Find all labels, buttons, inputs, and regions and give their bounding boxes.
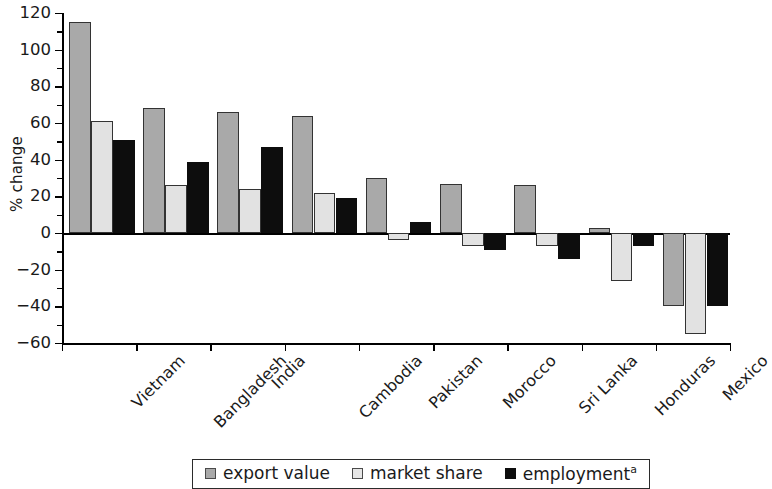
bar bbox=[685, 233, 707, 334]
bar-group bbox=[433, 13, 507, 343]
legend-item-market-share[interactable]: market share bbox=[352, 465, 483, 482]
chart-legend: export value market share employmenta bbox=[192, 459, 650, 489]
bar-group bbox=[359, 13, 433, 343]
bar bbox=[239, 189, 261, 233]
x-axis-label: Cambodia bbox=[355, 351, 426, 422]
y-tick-mark bbox=[55, 270, 62, 271]
bar-group bbox=[210, 13, 284, 343]
square-gray-icon bbox=[205, 468, 216, 479]
bar bbox=[611, 233, 633, 281]
legend-label-employment: employmenta bbox=[523, 464, 637, 483]
bar bbox=[217, 112, 239, 233]
y-tick-mark bbox=[55, 13, 62, 14]
x-tick-mark bbox=[730, 343, 731, 351]
bar bbox=[536, 233, 558, 246]
y-tick-mark bbox=[55, 233, 62, 234]
x-axis-label: Vietnam bbox=[128, 351, 189, 412]
bar bbox=[440, 184, 462, 234]
x-tick-mark bbox=[136, 343, 137, 351]
y-tick-mark bbox=[55, 306, 62, 307]
legend-label-employment-text: employment bbox=[523, 464, 630, 484]
x-tick-mark bbox=[656, 343, 657, 351]
y-tick-label: 120 bbox=[20, 5, 52, 22]
x-axis-label: Morocco bbox=[499, 351, 560, 412]
bar bbox=[69, 22, 91, 233]
y-tick-label: −60 bbox=[16, 335, 51, 352]
bar bbox=[336, 198, 358, 233]
bar bbox=[143, 108, 165, 233]
y-tick-mark bbox=[55, 123, 62, 124]
plot-area: 120100806040200−20−40−60 bbox=[62, 13, 730, 343]
x-tick-mark bbox=[507, 343, 508, 351]
x-tick-mark bbox=[285, 343, 286, 351]
y-tick-label: 60 bbox=[30, 115, 51, 132]
y-axis-title: % change bbox=[8, 119, 26, 229]
y-tick-mark bbox=[55, 196, 62, 197]
bar bbox=[366, 178, 388, 233]
bar-group bbox=[285, 13, 359, 343]
x-tick-mark bbox=[433, 343, 434, 351]
bar bbox=[663, 233, 685, 306]
x-tick-mark bbox=[359, 343, 360, 351]
y-tick-label: −20 bbox=[16, 261, 51, 278]
y-tick-mark bbox=[55, 343, 62, 344]
bar-group bbox=[656, 13, 730, 343]
square-black-icon bbox=[505, 468, 516, 479]
bar-group bbox=[507, 13, 581, 343]
y-tick-label: 0 bbox=[41, 225, 52, 242]
x-tick-mark bbox=[62, 343, 63, 351]
bar bbox=[91, 121, 113, 233]
x-tick-mark bbox=[210, 343, 211, 351]
x-axis-label: Bangladesh bbox=[210, 351, 290, 431]
bar-group bbox=[136, 13, 210, 343]
y-tick-label: 20 bbox=[30, 188, 51, 205]
legend-label-export-value: export value bbox=[223, 465, 330, 482]
x-axis-label: Pakistan bbox=[425, 351, 486, 412]
x-axis-label: Honduras bbox=[650, 351, 718, 419]
bar bbox=[261, 147, 283, 233]
bar bbox=[589, 228, 611, 234]
bar bbox=[707, 233, 729, 306]
y-tick-mark bbox=[55, 86, 62, 87]
y-tick-mark bbox=[55, 160, 62, 161]
bar bbox=[484, 233, 506, 250]
bar bbox=[558, 233, 580, 259]
y-tick-label: −40 bbox=[16, 298, 51, 315]
bar bbox=[187, 162, 209, 234]
bar bbox=[314, 193, 336, 233]
x-tick-mark bbox=[582, 343, 583, 351]
legend-item-export-value[interactable]: export value bbox=[205, 465, 330, 482]
bar bbox=[633, 233, 655, 246]
bar bbox=[113, 140, 135, 234]
bar bbox=[165, 185, 187, 233]
bottom-axis bbox=[62, 343, 730, 345]
x-axis-label: Sri Lanka bbox=[575, 351, 641, 417]
bar-group bbox=[62, 13, 136, 343]
y-tick-label: 40 bbox=[30, 151, 51, 168]
square-lightgray-icon bbox=[352, 468, 363, 479]
bar bbox=[514, 185, 536, 233]
bar bbox=[388, 233, 410, 240]
y-tick-label: 80 bbox=[30, 78, 51, 95]
y-tick-mark bbox=[55, 50, 62, 51]
bar bbox=[292, 116, 314, 233]
y-tick-label: 100 bbox=[20, 41, 52, 58]
x-axis-label: Mexico bbox=[718, 351, 771, 404]
bar-group bbox=[582, 13, 656, 343]
bar bbox=[462, 233, 484, 246]
legend-footnote-marker: a bbox=[630, 463, 637, 476]
legend-label-market-share: market share bbox=[370, 465, 483, 482]
legend-item-employment[interactable]: employmenta bbox=[505, 464, 637, 483]
bar bbox=[410, 222, 432, 233]
